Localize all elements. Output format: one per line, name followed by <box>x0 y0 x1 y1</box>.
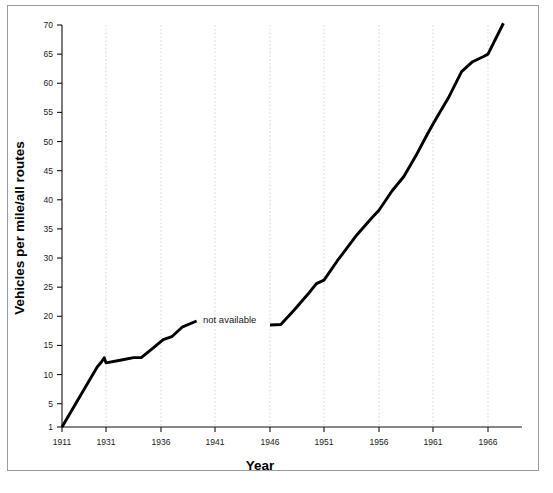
chart-figure: 1510152025303540455055606570 19111931193… <box>0 0 553 493</box>
y-tick-label-65: 65 <box>44 49 54 59</box>
y-tick-label-1: 1 <box>48 422 53 432</box>
y-axis-title: Vehicles per mile/all routes <box>12 141 27 314</box>
x-axis-title: Year <box>246 458 275 473</box>
series-line-2 <box>270 23 503 325</box>
x-tick-label-1936: 1936 <box>152 437 171 447</box>
y-tick-label-45: 45 <box>44 166 54 176</box>
y-tick-label-5: 5 <box>48 399 53 409</box>
y-tick-label-50: 50 <box>44 137 54 147</box>
y-tick-label-40: 40 <box>44 195 54 205</box>
y-tick-label-20: 20 <box>44 311 54 321</box>
y-tick-label-30: 30 <box>44 253 54 263</box>
y-tick-label-55: 55 <box>44 107 54 117</box>
gridlines <box>106 25 488 427</box>
x-tick-label-1931: 1931 <box>97 437 116 447</box>
x-tick-label-1946: 1946 <box>261 437 280 447</box>
y-tick-label-35: 35 <box>44 224 54 234</box>
x-tick-label-1911: 1911 <box>53 437 72 447</box>
data-series <box>62 23 503 427</box>
y-tick-label-60: 60 <box>44 78 54 88</box>
x-tick-label-1951: 1951 <box>315 437 334 447</box>
y-axis-ticks: 1510152025303540455055606570 <box>44 20 62 432</box>
x-tick-label-1941: 1941 <box>206 437 225 447</box>
y-tick-label-10: 10 <box>44 370 54 380</box>
line-chart: 1510152025303540455055606570 19111931193… <box>0 0 553 493</box>
series-line-1 <box>62 321 197 427</box>
x-tick-label-1966: 1966 <box>479 437 498 447</box>
x-axis-ticks: 191119311936194119461951195619611966 <box>53 427 498 447</box>
x-tick-label-1961: 1961 <box>424 437 443 447</box>
y-tick-label-15: 15 <box>44 340 54 350</box>
x-tick-label-1956: 1956 <box>370 437 389 447</box>
axes <box>62 25 522 427</box>
y-tick-label-25: 25 <box>44 282 54 292</box>
not-available-annotation: not available <box>203 314 256 325</box>
y-tick-label-70: 70 <box>44 20 54 30</box>
